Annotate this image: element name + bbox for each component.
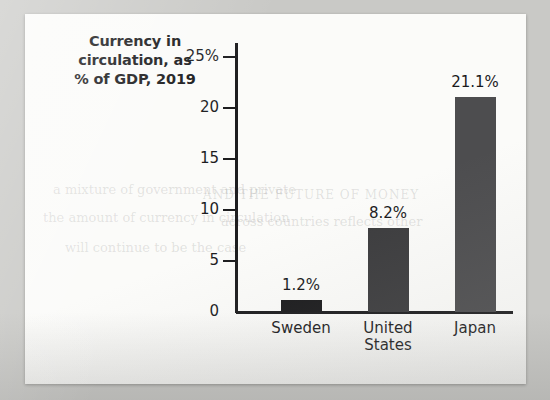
chart-card: a mixture of government and private the … (25, 14, 526, 384)
x-axis-category-line: Japan (420, 320, 530, 337)
y-axis-tick-mark (223, 158, 236, 160)
x-axis-category-line: States (333, 337, 443, 354)
bar[interactable] (455, 97, 496, 312)
bar-value-label: 8.2% (343, 206, 433, 221)
y-axis-tick-mark (223, 209, 236, 211)
y-axis-tick-mark (223, 260, 236, 262)
y-axis-tick-label: 20 (159, 100, 219, 115)
bar-value-label: 21.1% (430, 75, 520, 90)
figure-page: a mixture of government and private the … (0, 0, 550, 400)
y-axis-tick-label: 25% (159, 49, 219, 64)
plot-area: 0510152025% 1.2%Sweden8.2%UnitedStates21… (25, 14, 526, 384)
y-axis-tick-label: 5 (159, 253, 219, 268)
y-axis-tick-label: 15 (159, 151, 219, 166)
y-axis-tick-label: 10 (159, 202, 219, 217)
x-axis-category-label: Japan (420, 320, 530, 337)
y-axis-line (235, 43, 238, 313)
bar[interactable] (368, 228, 409, 312)
y-axis-tick-mark (223, 56, 236, 58)
bar[interactable] (281, 300, 322, 312)
y-axis-tick-label: 0 (159, 304, 219, 319)
bar-value-label: 1.2% (256, 278, 346, 293)
y-axis-tick-mark (223, 107, 236, 109)
